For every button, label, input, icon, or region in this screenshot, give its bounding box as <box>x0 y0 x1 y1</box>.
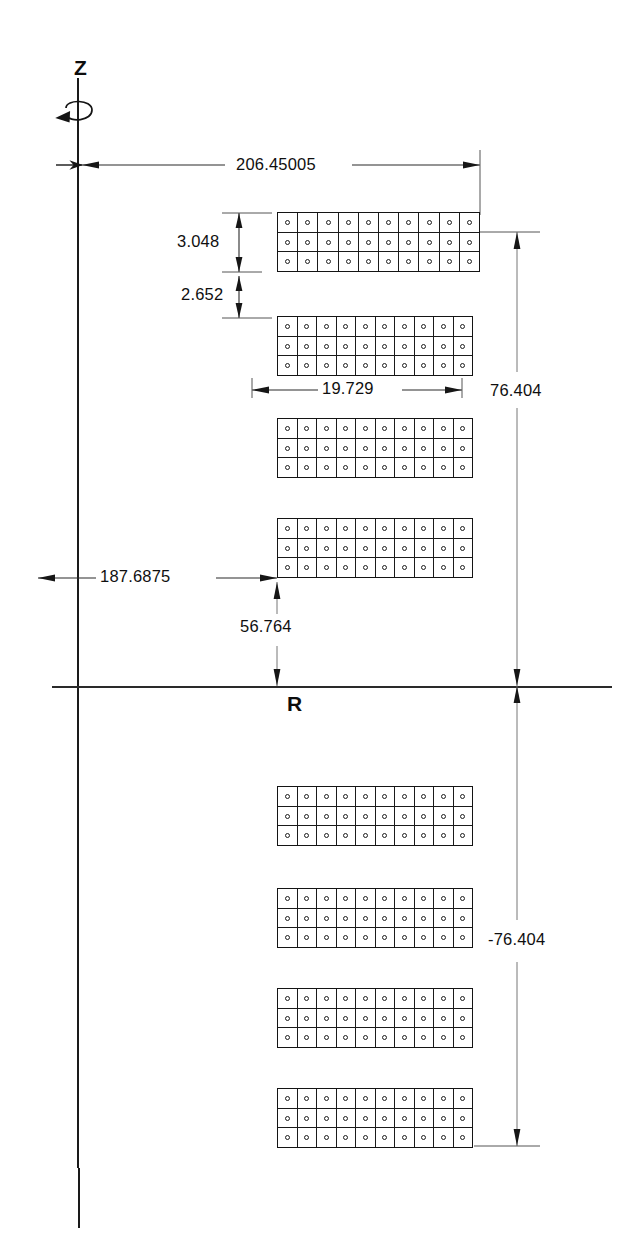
assembly-cell <box>375 356 395 375</box>
fuel-pin-circle-icon <box>386 259 391 264</box>
assembly-cell <box>297 213 317 232</box>
fuel-pin-circle-icon <box>441 833 446 838</box>
assembly-cell <box>414 787 434 806</box>
assembly-cell <box>316 519 336 538</box>
assembly-cell <box>418 252 438 271</box>
assembly-cell <box>414 1128 434 1147</box>
fuel-pin-circle-icon <box>285 259 290 264</box>
assembly-cell <box>375 1128 395 1147</box>
assembly-cell <box>414 1109 434 1128</box>
assembly-cell <box>394 928 414 947</box>
assembly-cell <box>278 928 297 947</box>
assembly-cell <box>297 787 317 806</box>
fuel-pin-circle-icon <box>304 465 309 470</box>
assembly-cell <box>394 356 414 375</box>
assembly-cell <box>278 539 297 558</box>
assembly-row <box>278 419 472 438</box>
assembly-cell <box>355 989 375 1008</box>
assembly-cell <box>453 1028 473 1047</box>
assembly-cell <box>375 539 395 558</box>
fuel-pin-circle-icon <box>363 1096 368 1101</box>
fuel-pin-circle-icon <box>441 1035 446 1040</box>
fuel-pin-circle-icon <box>427 259 432 264</box>
assembly-row <box>278 806 472 826</box>
assembly-cell <box>297 558 317 577</box>
fuel-pin-circle-icon <box>285 896 290 901</box>
assembly-cell <box>278 419 297 438</box>
fuel-pin-circle-icon <box>285 565 290 570</box>
fuel-pin-circle-icon <box>441 896 446 901</box>
assembly-cell <box>278 1028 297 1047</box>
assembly-cell <box>375 928 395 947</box>
assembly-row <box>278 538 472 558</box>
assembly-cell <box>278 317 297 336</box>
z-axis-label: Z <box>74 56 87 80</box>
assembly-cell <box>433 909 453 928</box>
assembly-cell <box>338 213 358 232</box>
fuel-pin-circle-icon <box>363 814 368 819</box>
assembly-cell <box>336 807 356 826</box>
dimension-label-axial-offset: 56.764 <box>240 617 292 636</box>
fuel-pin-circle-icon <box>382 324 387 329</box>
assembly-cell <box>355 519 375 538</box>
fuel-pin-circle-icon <box>326 259 331 264</box>
assembly-cell <box>317 252 337 271</box>
fuel-pin-circle-icon <box>346 259 351 264</box>
assembly-cell <box>414 928 434 947</box>
fuel-pin-circle-icon <box>324 896 329 901</box>
fuel-pin-circle-icon <box>363 344 368 349</box>
assembly-row <box>278 1008 472 1028</box>
fuel-pin-circle-icon <box>441 814 446 819</box>
assembly-cell <box>316 826 336 845</box>
assembly-cell <box>453 519 473 538</box>
assembly-cell <box>355 419 375 438</box>
block-lower-2 <box>277 888 473 948</box>
assembly-cell <box>336 826 356 845</box>
fuel-pin-circle-icon <box>363 916 368 921</box>
fuel-pin-circle-icon <box>285 363 290 368</box>
assembly-cell <box>394 1128 414 1147</box>
fuel-pin-circle-icon <box>447 220 452 225</box>
assembly-cell <box>453 1009 473 1028</box>
assembly-cell <box>433 458 453 477</box>
assembly-cell <box>394 889 414 908</box>
assembly-cell <box>414 909 434 928</box>
fuel-pin-circle-icon <box>304 833 309 838</box>
assembly-cell <box>414 539 434 558</box>
assembly-cell <box>355 356 375 375</box>
assembly-cell <box>278 807 297 826</box>
fuel-pin-circle-icon <box>304 324 309 329</box>
fuel-pin-circle-icon <box>460 1016 465 1021</box>
assembly-row <box>278 251 479 271</box>
fuel-pin-circle-icon <box>421 833 426 838</box>
fuel-pin-circle-icon <box>304 896 309 901</box>
r-axis-label: R <box>287 692 302 716</box>
fuel-pin-circle-icon <box>346 240 351 245</box>
assembly-cell <box>336 356 356 375</box>
assembly-cell <box>414 519 434 538</box>
fuel-pin-circle-icon <box>421 546 426 551</box>
fuel-pin-circle-icon <box>460 916 465 921</box>
fuel-pin-circle-icon <box>402 996 407 1001</box>
fuel-pin-circle-icon <box>366 220 371 225</box>
assembly-cell <box>278 458 297 477</box>
fuel-pin-circle-icon <box>402 526 407 531</box>
dimension-label-radial-outer: 206.45005 <box>236 155 316 174</box>
assembly-cell <box>394 909 414 928</box>
assembly-cell <box>355 909 375 928</box>
fuel-pin-circle-icon <box>382 1135 387 1140</box>
fuel-pin-circle-icon <box>363 896 368 901</box>
fuel-pin-circle-icon <box>363 426 368 431</box>
fuel-pin-circle-icon <box>343 1135 348 1140</box>
fuel-pin-circle-icon <box>402 1135 407 1140</box>
fuel-pin-circle-icon <box>421 363 426 368</box>
assembly-cell <box>316 439 336 458</box>
assembly-cell <box>375 419 395 438</box>
fuel-pin-circle-icon <box>382 363 387 368</box>
assembly-cell <box>453 826 473 845</box>
fuel-pin-circle-icon <box>427 240 432 245</box>
fuel-pin-circle-icon <box>421 324 426 329</box>
fuel-pin-circle-icon <box>460 546 465 551</box>
fuel-pin-circle-icon <box>382 935 387 940</box>
assembly-cell <box>358 252 378 271</box>
